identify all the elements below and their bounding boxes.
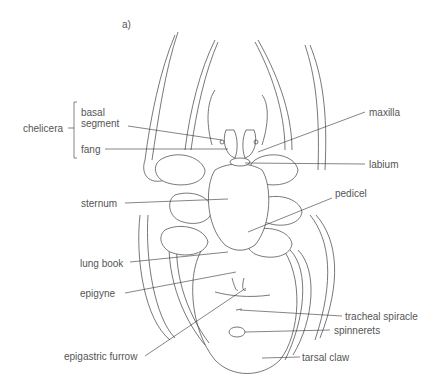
label-epigastric-furrow: epigastric furrow bbox=[64, 351, 137, 362]
pointer-basal-segment bbox=[128, 126, 222, 140]
abdomen-outline bbox=[193, 245, 297, 374]
spider-anatomy-diagram: a) chelicera basal segment fang sternum … bbox=[0, 0, 441, 383]
label-maxilla: maxilla bbox=[369, 107, 400, 118]
label-tarsal-claw: tarsal claw bbox=[302, 352, 349, 363]
panel-label: a) bbox=[122, 19, 131, 30]
pointer-tracheal-spiracle bbox=[240, 310, 342, 316]
label-basal-line2: segment bbox=[81, 118, 119, 129]
label-chelicera: chelicera bbox=[23, 123, 63, 134]
label-epigyne: epigyne bbox=[80, 288, 115, 299]
label-fang: fang bbox=[81, 144, 100, 155]
right-chelicera bbox=[243, 130, 256, 158]
left-legs bbox=[139, 32, 218, 345]
label-lung-book: lung book bbox=[80, 258, 123, 269]
label-spinnerets: spinnerets bbox=[334, 325, 380, 336]
label-sternum: sternum bbox=[81, 198, 117, 209]
pointer-tarsal-claw bbox=[262, 357, 300, 358]
label-basal-line1: basal bbox=[81, 107, 105, 118]
sternum-shape bbox=[208, 164, 268, 250]
label-tracheal-spiracle: tracheal spiracle bbox=[345, 311, 418, 322]
pointer-epigastric-furrow bbox=[145, 288, 246, 356]
pointer-maxilla bbox=[258, 112, 365, 152]
left-chelicera bbox=[224, 130, 237, 158]
chelicera-bracket bbox=[68, 102, 77, 158]
labium-shape bbox=[230, 158, 250, 166]
label-labium: labium bbox=[369, 159, 398, 170]
label-pedicel: pedicel bbox=[335, 188, 367, 199]
